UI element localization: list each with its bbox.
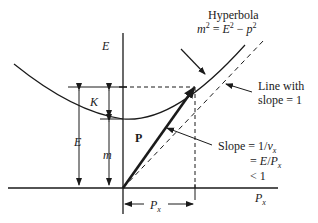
line-note-1: Line with: [258, 80, 304, 92]
momentum-vector: [123, 88, 194, 188]
hyperbola-title: Hyperbola: [208, 9, 259, 21]
axis-y-label: E: [102, 40, 109, 52]
px-label: Px: [150, 199, 161, 214]
label-e: E: [74, 136, 81, 148]
hyperbola-equation: m2 = E2 − p2: [197, 22, 257, 35]
label-momentum: P: [135, 132, 142, 144]
label-m: m: [103, 149, 112, 161]
line-note-2: slope = 1: [258, 94, 302, 106]
diagram-lines: [0, 0, 318, 223]
label-k: K: [90, 96, 98, 108]
energy-momentum-diagram: Hyperbola m2 = E2 − p2 E K E m P Px Px L…: [0, 0, 318, 223]
axis-x-label: Px: [255, 192, 266, 207]
hyperbola-curve: [14, 45, 245, 119]
slope-note-3: < 1: [250, 170, 266, 182]
